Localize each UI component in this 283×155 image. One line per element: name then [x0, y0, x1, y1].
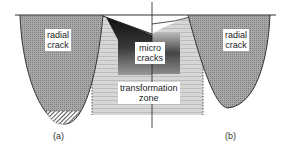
caption-b: (b) — [225, 131, 236, 141]
label-line: transformation — [120, 83, 178, 93]
label-line: crack — [225, 40, 247, 50]
caption-a: (a) — [53, 131, 64, 141]
label-line: zone — [120, 93, 178, 103]
diagram-canvas — [0, 0, 283, 155]
label-radial-crack-left: radial crack — [45, 29, 71, 51]
label-line: crack — [47, 40, 69, 50]
label-radial-crack-right: radial crack — [223, 29, 249, 51]
label-line: cracks — [137, 53, 163, 63]
label-line: radial — [47, 30, 69, 40]
label-transformation-zone: transformation zone — [118, 82, 180, 104]
label-line: radial — [225, 30, 247, 40]
label-line: micro — [137, 43, 163, 53]
label-micro-cracks: micro cracks — [135, 42, 165, 64]
